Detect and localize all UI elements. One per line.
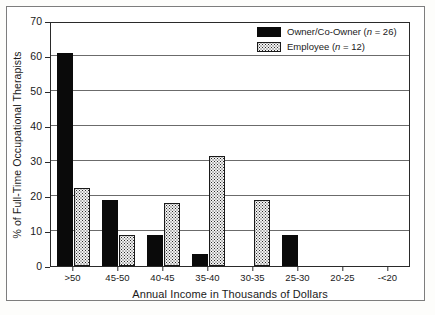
y-axis-tick-label: 30 — [30, 155, 42, 168]
legend-swatch-owner — [257, 27, 281, 37]
figure-container: % of Full-Time Occupational Therapists 0… — [0, 0, 435, 315]
bar-employee — [119, 235, 135, 267]
x-axis-tick-mark — [342, 267, 343, 271]
y-axis-tick-label: 10 — [30, 225, 42, 238]
bar-group — [51, 23, 409, 266]
x-axis-tick-mark — [72, 267, 73, 271]
bar-owner — [57, 53, 73, 266]
x-axis-tick-mark — [252, 267, 253, 271]
x-axis-tick-label: 20-25 — [330, 272, 354, 283]
x-axis-tick-label: 30-35 — [240, 272, 264, 283]
bar-owner — [282, 235, 298, 266]
legend-item: Employee (n = 12) — [257, 40, 409, 53]
bar-employee — [254, 200, 270, 267]
x-axis-tick: 20-25 — [320, 267, 365, 287]
x-axis-tick-label: >50 — [64, 272, 80, 283]
x-axis-tick: >50 — [50, 267, 95, 287]
x-axis-tick-mark — [387, 267, 388, 271]
x-axis-tick-mark — [117, 267, 118, 271]
chart-legend: Owner/Co-Owner (n = 26)Employee (n = 12) — [255, 22, 411, 58]
y-axis-tick-label: 0 — [36, 260, 42, 273]
x-axis-tick-label: -<20 — [378, 272, 397, 283]
bar-owner — [102, 200, 118, 267]
x-axis-tick-label: 25-30 — [285, 272, 309, 283]
y-axis-tick-label: 40 — [30, 120, 42, 133]
x-axis-tick-label: 40-45 — [150, 272, 174, 283]
legend-label: Owner/Co-Owner (n = 26) — [287, 26, 397, 37]
bar-employee — [164, 203, 180, 266]
x-axis-title: Annual Income in Thousands of Dollars — [50, 288, 410, 300]
x-axis-tick-mark — [297, 267, 298, 271]
legend-item: Owner/Co-Owner (n = 26) — [257, 25, 409, 38]
y-axis-tick-label: 20 — [30, 190, 42, 203]
bar-employee — [74, 188, 90, 266]
y-axis-tick-label: 70 — [30, 15, 42, 28]
bar-owner — [147, 235, 163, 266]
x-axis-tick: 45-50 — [95, 267, 140, 287]
x-axis-tick-mark — [162, 267, 163, 271]
x-axis-tick-label: 35-40 — [195, 272, 219, 283]
x-axis-tick: 30-35 — [230, 267, 275, 287]
y-axis-ticks: 010203040506070 — [0, 22, 50, 267]
bar-owner — [192, 254, 208, 266]
x-axis-tick-mark — [207, 267, 208, 271]
x-axis-tick: 35-40 — [185, 267, 230, 287]
x-axis-tick: 40-45 — [140, 267, 185, 287]
bar-employee — [209, 156, 225, 266]
legend-swatch-employee — [257, 42, 281, 52]
y-axis-tick-label: 60 — [30, 50, 42, 63]
y-axis-tick-label: 50 — [30, 85, 42, 98]
legend-label: Employee (n = 12) — [287, 41, 365, 52]
plot-area — [50, 22, 410, 267]
x-axis-tick: 25-30 — [275, 267, 320, 287]
x-axis-tick-label: 45-50 — [105, 272, 129, 283]
x-axis-ticks: >5045-5040-4535-4030-3525-3020-25-<20 — [50, 267, 410, 289]
x-axis-tick: -<20 — [365, 267, 410, 287]
